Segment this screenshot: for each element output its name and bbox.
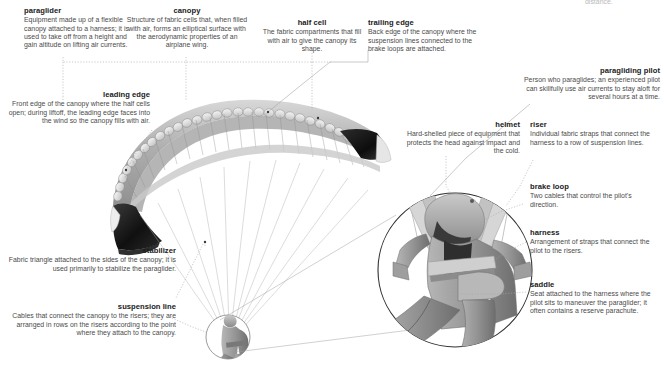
callout-title: half cell — [262, 18, 362, 27]
callout-canopy: canopy Structure of fabric cells that, w… — [126, 6, 248, 50]
infographic-canvas: distance. paraglider Equipment made up o… — [0, 0, 664, 385]
leader-brake-loop — [480, 204, 523, 222]
callout-riser: riser Individual fabric straps that conn… — [530, 120, 656, 147]
callout-title: paraglider — [24, 6, 134, 15]
leader-harness — [492, 242, 526, 262]
callout-leading-edge: leading edge Front edge of the canopy wh… — [6, 90, 150, 125]
leader-riser — [506, 160, 533, 206]
callout-brake-loop: brake loop Two cables that control the p… — [530, 182, 658, 209]
callout-description: Individual fabric straps that connect th… — [530, 130, 656, 147]
leader-endpoints — [125, 111, 319, 243]
callout-title: helmet — [398, 120, 520, 129]
leader-saddle — [455, 292, 526, 294]
callout-title: leading edge — [6, 90, 150, 99]
callout-description: Seat attached to the harness where the p… — [530, 290, 658, 315]
callout-helmet: helmet Hard-shelled piece of equipment t… — [398, 120, 520, 155]
callout-description: Two cables that control the pilot's dire… — [530, 192, 658, 209]
leader-paraglider — [63, 57, 331, 62]
callout-description: Back edge of the canopy where the suspen… — [368, 28, 480, 53]
callout-title: trailing edge — [368, 18, 480, 27]
callout-description: The fabric compartments that fill with a… — [262, 28, 362, 53]
callout-saddle: saddle Seat attached to the harness wher… — [530, 280, 658, 315]
leader-leading-edge — [126, 130, 152, 170]
callout-description: Fabric triangle attached to the sides of… — [6, 256, 176, 273]
callout-title: saddle — [530, 280, 658, 289]
callout-description: Equipment made up of a flexible canopy a… — [24, 16, 134, 49]
callout-title: stabilizer — [6, 246, 176, 255]
callout-trailing-edge: trailing edge Back edge of the canopy wh… — [368, 18, 480, 53]
callout-title: harness — [530, 228, 658, 237]
callout-description: Arrangement of straps that connect the p… — [530, 238, 658, 255]
leader-suspension-line — [172, 318, 208, 333]
callout-half-cell: half cell The fabric compartments that f… — [262, 18, 362, 53]
callout-harness: harness Arrangement of straps that conne… — [530, 228, 658, 255]
callout-title: canopy — [126, 6, 248, 15]
callout-title: riser — [530, 120, 656, 129]
callout-paragliding-pilot: paragliding pilot Person who paraglides;… — [512, 66, 660, 101]
callout-description: Cables that connect the canopy to the ri… — [6, 312, 176, 337]
callout-title: suspension line — [6, 302, 176, 311]
callout-stabilizer: stabilizer Fabric triangle attached to t… — [6, 246, 176, 273]
callout-suspension-line: suspension line Cables that connect the … — [6, 302, 176, 337]
callout-description: Front edge of the canopy where the half … — [6, 100, 150, 125]
callout-title: brake loop — [530, 182, 658, 191]
leader-trailing-edge — [268, 62, 330, 112]
callout-paraglider: paraglider Equipment made up of a flexib… — [24, 6, 134, 50]
callout-description: Person who paraglides; an experienced pi… — [512, 76, 660, 101]
callout-title: paragliding pilot — [512, 66, 660, 75]
callout-description: Hard-shelled piece of equipment that pro… — [398, 130, 520, 155]
leader-stabilizer — [176, 244, 203, 298]
callout-description: Structure of fabric cells that, when fil… — [126, 16, 248, 49]
